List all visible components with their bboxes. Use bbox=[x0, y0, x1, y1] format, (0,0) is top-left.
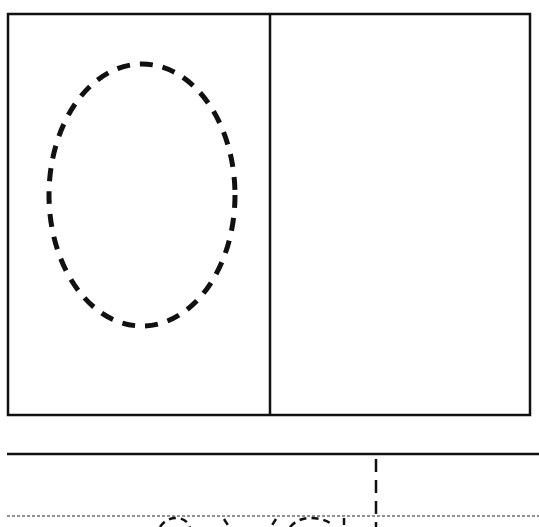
letter-trace-4 bbox=[290, 518, 330, 527]
traced-letters-partial bbox=[160, 518, 344, 527]
letter-trace-2 bbox=[224, 519, 229, 527]
left-panel bbox=[49, 64, 235, 326]
letter-trace-3 bbox=[271, 519, 276, 527]
right-panel-blank-area bbox=[272, 16, 529, 414]
worksheet-canvas bbox=[0, 0, 539, 527]
dashed-oval-trace-shape bbox=[49, 64, 235, 326]
handwriting-practice-lines bbox=[7, 454, 539, 527]
letter-trace-1 bbox=[160, 518, 190, 527]
